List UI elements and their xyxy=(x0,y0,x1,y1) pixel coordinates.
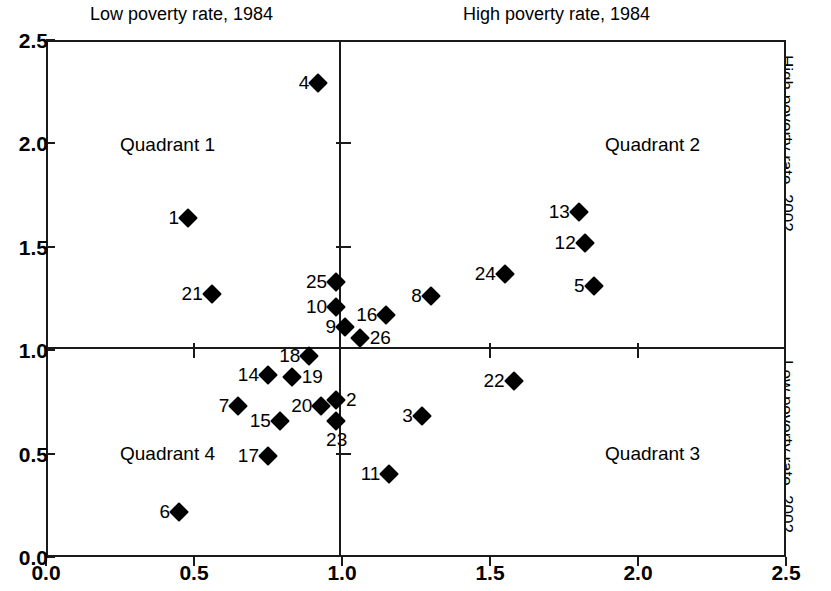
data-point-label: 14 xyxy=(238,365,259,384)
data-point-label: 6 xyxy=(160,502,171,521)
y-divider-tick xyxy=(336,142,351,144)
data-point-label: 3 xyxy=(402,406,413,425)
x-tick-label: 2.0 xyxy=(598,562,678,583)
data-point-label: 21 xyxy=(182,284,203,303)
vertical-reference-line xyxy=(339,40,341,557)
horizontal-reference-line xyxy=(46,347,786,349)
y-divider-tick xyxy=(336,246,351,248)
data-point-label: 19 xyxy=(302,367,323,386)
data-point-label: 17 xyxy=(238,446,259,465)
data-point-label: 26 xyxy=(370,328,391,347)
x-divider-tick xyxy=(637,343,639,358)
data-point-label: 1 xyxy=(169,208,180,227)
data-point-label: 25 xyxy=(306,272,327,291)
quadrant-label: Quadrant 3 xyxy=(605,444,700,463)
y-tick-label: 1.5 xyxy=(0,237,48,258)
x-tick-label: 2.5 xyxy=(746,562,826,583)
y-tick-label: 2.0 xyxy=(0,133,48,154)
data-point-label: 13 xyxy=(549,202,570,221)
data-point-label: 8 xyxy=(411,286,422,305)
data-point-label: 22 xyxy=(484,371,505,390)
data-point-label: 23 xyxy=(326,430,347,449)
y-tick-label: 0.5 xyxy=(0,444,48,465)
data-point-label: 24 xyxy=(475,264,496,283)
data-point-label: 5 xyxy=(574,276,585,295)
data-point-label: 16 xyxy=(356,305,377,324)
x-tick-label: 0.0 xyxy=(6,562,86,583)
data-point-label: 12 xyxy=(555,233,576,252)
x-tick-label: 0.5 xyxy=(154,562,234,583)
y-tick-label: 1.0 xyxy=(0,340,48,361)
data-point-label: 2 xyxy=(346,390,357,409)
data-point-label: 15 xyxy=(250,411,271,430)
x-tick-label: 1.0 xyxy=(302,562,382,583)
top-left-axis-title: Low poverty rate, 1984 xyxy=(90,5,273,23)
y-divider-tick xyxy=(336,453,351,455)
scatter-plot-figure: Low poverty rate, 1984 High poverty rate… xyxy=(0,0,831,591)
x-tick-label: 1.5 xyxy=(450,562,530,583)
data-point-label: 7 xyxy=(219,396,230,415)
quadrant-label: Quadrant 4 xyxy=(120,444,215,463)
data-point-label: 9 xyxy=(325,317,336,336)
top-right-axis-title: High poverty rate, 1984 xyxy=(463,5,650,23)
data-point-label: 11 xyxy=(361,464,381,483)
x-divider-tick xyxy=(193,343,195,358)
y-tick-label: 2.5 xyxy=(0,30,48,51)
quadrant-label: Quadrant 1 xyxy=(120,135,215,154)
data-point-label: 10 xyxy=(306,297,327,316)
quadrant-label: Quadrant 2 xyxy=(605,135,700,154)
data-point-label: 18 xyxy=(279,346,300,365)
data-point-label: 4 xyxy=(299,73,310,92)
x-divider-tick xyxy=(489,343,491,358)
data-point-label: 20 xyxy=(291,396,312,415)
